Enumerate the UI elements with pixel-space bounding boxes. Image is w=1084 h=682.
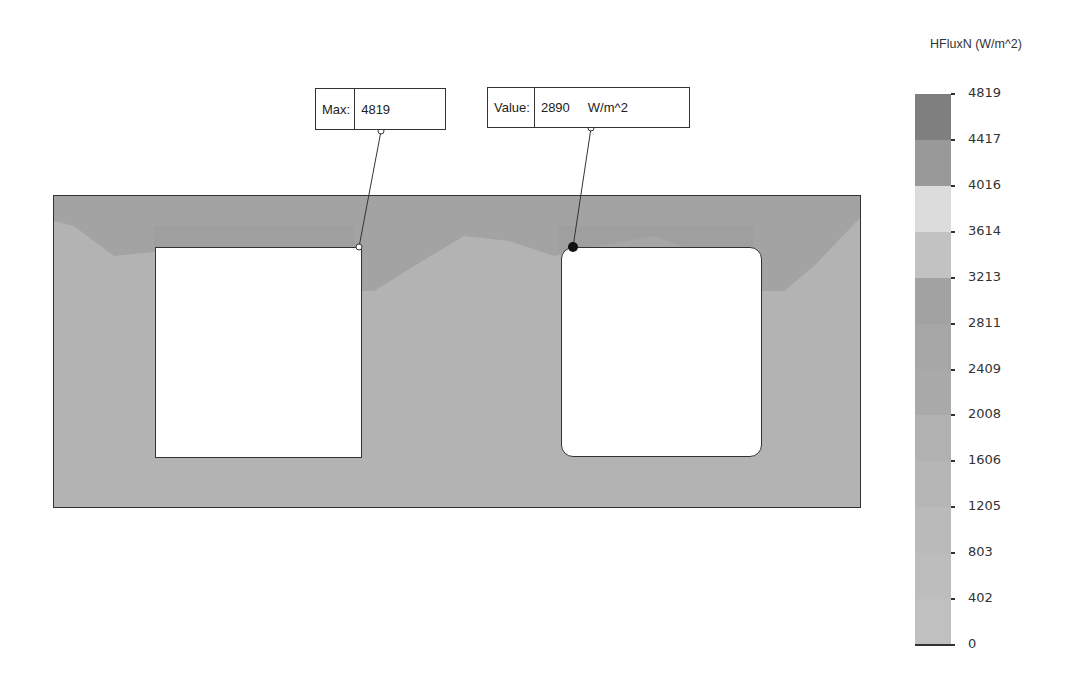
legend-segment: [915, 94, 951, 140]
legend-tick-label: 3614: [968, 223, 1001, 238]
legend-tick-label: 0: [968, 636, 976, 651]
probe-value: 2890: [541, 100, 570, 115]
legend-segment: [915, 232, 951, 278]
legend-segment: [915, 461, 951, 507]
legend-tick-label: 2409: [968, 361, 1001, 376]
legend-tick: [951, 139, 955, 141]
legend-tick: [951, 369, 955, 371]
legend-tick-label: 2811: [968, 315, 1001, 330]
legend-tick: [951, 93, 955, 95]
legend-segment: [915, 140, 951, 186]
legend-tick: [951, 323, 955, 325]
legend-baseline: [915, 644, 955, 646]
max-point-icon: [356, 244, 362, 250]
legend-tick: [951, 598, 955, 600]
max-value: 4819: [361, 102, 390, 117]
max-callout[interactable]: Max: 4819: [315, 88, 446, 130]
legend-tick: [951, 552, 955, 554]
legend-segment: [915, 186, 951, 232]
legend-tick-label: 3213: [968, 269, 1001, 284]
legend-tick: [951, 185, 955, 187]
legend-tick-label: 2008: [968, 406, 1001, 421]
legend-segment: [915, 507, 951, 553]
probe-label: Value:: [488, 88, 535, 127]
legend-segment: [915, 369, 951, 415]
legend-tick: [951, 277, 955, 279]
legend-tick: [951, 231, 955, 233]
legend-tick: [951, 414, 955, 416]
legend-tick-label: 803: [968, 544, 993, 559]
legend-segment: [915, 324, 951, 370]
legend-segment: [915, 599, 951, 645]
legend-tick: [951, 506, 955, 508]
color-bar: [915, 94, 951, 645]
probe-point-icon: [568, 242, 578, 252]
legend-tick-label: 4819: [968, 85, 1001, 100]
legend-tick-label: 4016: [968, 177, 1001, 192]
legend-segment: [915, 278, 951, 324]
legend-tick-label: 1205: [968, 498, 1001, 513]
legend-tick: [951, 460, 955, 462]
probe-callout[interactable]: Value: 2890 W/m^2: [487, 87, 690, 128]
legend-tick-label: 4417: [968, 131, 1001, 146]
probe-unit: W/m^2: [588, 100, 628, 115]
legend-title: HFluxN (W/m^2): [930, 37, 1022, 51]
legend-tick-label: 1606: [968, 452, 1001, 467]
max-label: Max:: [316, 89, 355, 129]
legend-segment: [915, 553, 951, 599]
legend-tick-label: 402: [968, 590, 993, 605]
legend-segment: [915, 415, 951, 461]
